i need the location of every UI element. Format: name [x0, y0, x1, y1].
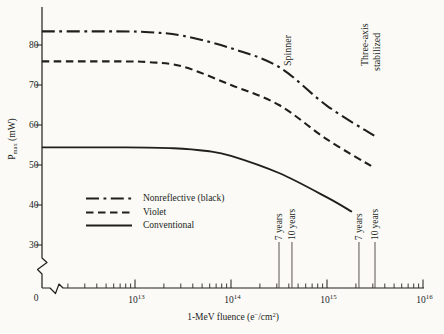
- y-tick-label: 60: [29, 120, 39, 130]
- legend-item-nonreflective: Nonreflective (black): [85, 192, 225, 206]
- x-axis-title-prefix: 1-MeV fluence (e: [187, 312, 254, 322]
- annotation-three-axis-stabilized: Three-axis: [359, 23, 370, 66]
- y-axis-symbol: P: [7, 154, 17, 159]
- x-axis-title-suffix: ): [276, 312, 279, 322]
- y-tick-label: 70: [29, 80, 39, 90]
- guide-line-label: 7 years: [274, 213, 284, 240]
- y-axis-subscript: max: [11, 143, 18, 154]
- annotation-three-axis-stabilized: stabilized: [371, 33, 382, 71]
- curve-violet: [42, 61, 375, 168]
- legend-dashdot-line-sample: [85, 195, 133, 202]
- x-tick-label: 1013: [128, 293, 145, 305]
- legend-item-violet: Violet: [85, 206, 225, 220]
- x-axis-title-mid: /cm: [258, 312, 272, 322]
- legend-dashed-line-sample: [85, 209, 133, 216]
- legend: Nonreflective (black) Violet Conventiona…: [85, 192, 225, 233]
- y-tick-label: 30: [29, 240, 39, 250]
- chart-canvas: 304050607080101310141015101607 years10 y…: [0, 0, 444, 334]
- x-origin-label: 0: [34, 293, 39, 303]
- x-tick-label: 1016: [416, 293, 433, 305]
- legend-item-conventional: Conventional: [85, 219, 225, 233]
- legend-item-label: Nonreflective (black): [143, 194, 225, 204]
- annotation-spinner: Spinner: [282, 34, 293, 66]
- guide-line-label: 10 years: [287, 208, 297, 240]
- y-tick-label: 50: [29, 160, 39, 170]
- x-axis-line: [42, 284, 424, 294]
- y-tick-label: 40: [29, 200, 39, 210]
- y-tick-label: 80: [29, 40, 39, 50]
- y-axis-title: Pmax (mW): [8, 118, 19, 160]
- guide-line-label: 7 years: [354, 213, 364, 240]
- y-axis-units: (mW): [7, 118, 17, 143]
- legend-item-label: Violet: [143, 208, 166, 218]
- x-tick-label: 1015: [320, 293, 337, 305]
- guide-line-label: 10 years: [370, 208, 380, 240]
- fluence-degradation-figure: 304050607080101310141015101607 years10 y…: [0, 0, 444, 334]
- legend-solid-line-sample: [85, 222, 133, 229]
- legend-item-label: Conventional: [143, 221, 194, 231]
- x-tick-label: 1014: [224, 293, 241, 305]
- curve-nonreflective-black: [42, 31, 375, 136]
- x-axis-title: 1-MeV fluence (e−/cm2): [187, 312, 279, 323]
